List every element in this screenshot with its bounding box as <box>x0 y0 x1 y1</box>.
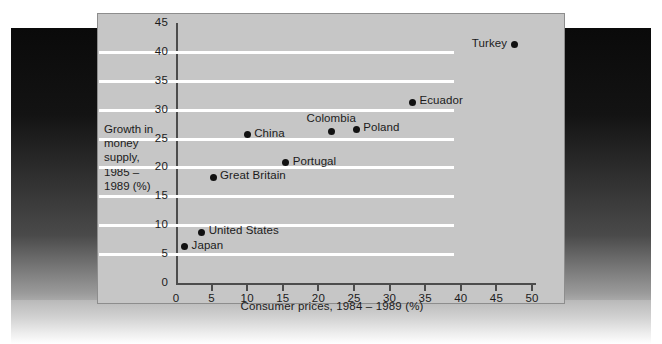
data-point-label: China <box>254 127 285 139</box>
scatter-chart-panel: Growth inmoneysupply,1985 –1989 (%) 0510… <box>97 13 565 304</box>
y-tick-label: 40 <box>142 45 168 57</box>
y-tick-label: 5 <box>142 247 168 259</box>
data-point-label: United States <box>209 224 279 236</box>
data-point-marker[interactable] <box>198 229 205 236</box>
data-point-marker[interactable] <box>282 159 289 166</box>
x-tick <box>389 285 391 291</box>
data-point-label: Poland <box>363 121 399 133</box>
data-point-marker[interactable] <box>353 126 360 133</box>
y-tick-label: 0 <box>142 276 168 288</box>
y-axis-line <box>176 23 178 285</box>
data-point-label: Ecuador <box>419 94 463 106</box>
y-tick-label: 15 <box>142 189 168 201</box>
x-axis-line <box>176 283 536 285</box>
data-point-marker[interactable] <box>409 99 416 106</box>
x-tick <box>211 285 213 291</box>
data-point-marker[interactable] <box>328 128 335 135</box>
data-point-label: Portugal <box>293 155 337 167</box>
x-tick <box>246 285 248 291</box>
data-point-label: Turkey <box>472 37 507 49</box>
data-point-marker[interactable] <box>244 131 251 138</box>
y-tick-label: 45 <box>142 16 168 28</box>
x-axis-title: Consumer prices, 1984 – 1989 (%) <box>98 300 566 312</box>
data-point-marker[interactable] <box>210 174 217 181</box>
y-tick-label: 20 <box>142 160 168 172</box>
y-tick-label: 10 <box>142 218 168 230</box>
x-tick <box>424 285 426 291</box>
data-point-label: Great Britain <box>220 169 286 181</box>
x-tick <box>531 285 533 291</box>
x-tick <box>317 285 319 291</box>
x-tick <box>495 285 497 291</box>
x-tick <box>282 285 284 291</box>
x-tick <box>353 285 355 291</box>
x-tick <box>460 285 462 291</box>
y-tick-label: 35 <box>142 74 168 86</box>
data-point-marker[interactable] <box>511 41 518 48</box>
y-tick-label: 25 <box>142 132 168 144</box>
decorative-band-right <box>564 28 651 316</box>
y-tick-label: 30 <box>142 103 168 115</box>
data-point-label: Colombia <box>307 112 356 124</box>
data-point-label: Japan <box>192 239 224 251</box>
data-point-marker[interactable] <box>181 243 188 250</box>
decorative-band-left <box>11 28 98 316</box>
